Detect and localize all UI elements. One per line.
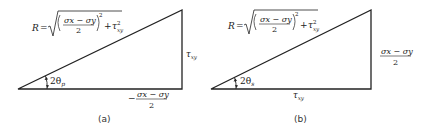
svg-text:2: 2 [76,26,81,35]
triangle-a [18,10,182,89]
mohr-triangles-figure: 2θp R = σx − σy 2 2 + τ 2 xy τxy − σx [0,0,423,134]
caption-a: (a) [98,114,111,124]
caption-b: (b) [294,114,307,124]
svg-text:σx − σy: σx − σy [260,15,292,24]
svg-text:σx − σy: σx − σy [64,16,96,25]
vertical-label-a: τxy [186,49,198,61]
vertical-label-b: σx − σy 2 [380,47,413,67]
svg-text:R: R [31,23,39,33]
angle-label-a: 2θp [50,76,65,88]
panel-b: 2θs R = σx − σy 2 2 + τ 2 xy σx − σy 2 τ… [211,10,413,124]
arrowhead-icon [234,79,238,82]
svg-text:+: + [104,21,112,31]
angle-label-b: 2θs [240,76,254,87]
horizontal-label-b: τxy [293,90,305,102]
svg-text:2: 2 [149,101,154,110]
svg-text:=: = [40,23,48,33]
svg-text:−: − [128,93,136,103]
arrowhead-icon [45,77,49,80]
radius-formula-b: R = σx − σy 2 2 + τ 2 xy [227,10,320,34]
svg-text:R: R [227,21,235,31]
svg-text:σx − σy: σx − σy [137,90,169,99]
svg-text:σx − σy: σx − σy [381,47,413,56]
arrowhead-icon [235,85,238,88]
svg-text:2: 2 [393,58,398,67]
arrowhead-icon [46,85,49,88]
svg-text:2: 2 [117,20,121,26]
svg-text:xy: xy [117,27,124,34]
svg-text:2: 2 [313,19,317,25]
svg-text:+: + [300,20,308,30]
radius-formula-a: R = σx − σy 2 2 + τ 2 xy [31,11,124,36]
svg-text:2: 2 [295,11,299,17]
svg-text:=: = [236,21,244,31]
svg-text:2: 2 [272,25,277,34]
svg-text:xy: xy [313,26,320,33]
svg-text:2: 2 [99,12,103,18]
horizontal-label-a: − σx − σy 2 [128,90,169,110]
panel-a: 2θp R = σx − σy 2 2 + τ 2 xy τxy − σx [18,10,198,124]
